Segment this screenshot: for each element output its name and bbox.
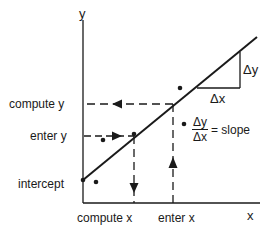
compute-y-arrow-icon: [112, 100, 122, 109]
data-point: [178, 86, 183, 91]
x-axis-label: x: [247, 209, 254, 222]
regression-line: [83, 37, 257, 180]
data-point: [132, 132, 137, 137]
compute-x-arrow-icon: [130, 183, 139, 193]
slope-equals-text: = slope: [211, 124, 250, 136]
compute-y-label: compute y: [9, 98, 64, 110]
enter-y-arrow-icon: [112, 132, 122, 141]
data-point: [81, 178, 86, 183]
compute-x-label: compute x: [77, 212, 132, 224]
slope-formula: Δy Δx = slope: [192, 116, 250, 143]
data-point: [101, 138, 106, 143]
diagram-canvas: [0, 0, 267, 230]
slope-denominator: Δx: [193, 130, 207, 143]
delta-y-label: Δy: [243, 63, 258, 76]
intercept-label: intercept: [18, 178, 64, 190]
data-point: [94, 180, 99, 185]
enter-x-label: enter x: [158, 212, 195, 224]
slope-fraction: Δy Δx: [192, 116, 208, 143]
data-point: [182, 122, 187, 127]
enter-x-arrow-icon: [169, 157, 178, 168]
regression-diagram: y x compute y enter y intercept compute …: [0, 0, 267, 230]
slope-numerator: Δy: [192, 116, 208, 130]
enter-y-label: enter y: [30, 130, 67, 142]
y-axis-label: y: [79, 7, 86, 20]
delta-x-label: Δx: [210, 92, 225, 105]
